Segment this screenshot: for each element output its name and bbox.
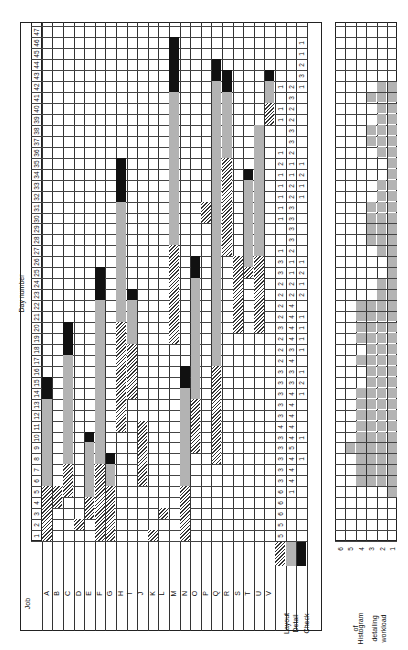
total-detail: 1 — [286, 257, 296, 268]
totals-label-check: Check — [304, 614, 311, 634]
day-number: 24 — [32, 279, 42, 290]
total-check: 1 — [297, 257, 307, 268]
bar-layout — [127, 344, 137, 399]
bar-layout — [148, 530, 158, 541]
total-layout: 6 — [275, 509, 285, 520]
bar-layout — [169, 245, 179, 344]
histogram-cell — [377, 202, 386, 212]
histogram-cell — [388, 410, 397, 420]
grid-line — [335, 530, 397, 531]
bar-layout — [42, 486, 52, 541]
bar-layout — [106, 486, 116, 541]
total-detail: 3 — [286, 213, 296, 224]
total-detail: 4 — [286, 312, 296, 323]
totals-label-layout: Layout — [283, 613, 290, 634]
day-number: 16 — [32, 366, 42, 377]
bar-detail — [244, 180, 254, 268]
histogram-cell — [377, 191, 386, 201]
job-label-U: U — [255, 591, 262, 596]
day-number: 5 — [32, 487, 42, 498]
total-detail: 2 — [286, 290, 296, 301]
day-number: 39 — [32, 114, 42, 125]
total-check: 1 — [297, 82, 307, 93]
job-label-O: O — [191, 591, 198, 596]
histogram-scale: 1 — [388, 544, 398, 555]
day-number: 35 — [32, 158, 42, 169]
histogram-cell — [377, 213, 386, 223]
histogram-cell — [367, 388, 376, 398]
grid-line — [31, 26, 307, 27]
total-detail: 1 — [286, 169, 296, 180]
histogram-cell — [377, 136, 386, 146]
histogram-cell — [377, 421, 386, 431]
total-layout: 4 — [275, 421, 285, 432]
histogram-cell — [356, 410, 365, 420]
bar-check — [95, 267, 105, 300]
total-check: 1 — [297, 432, 307, 443]
histogram-cell — [377, 399, 386, 409]
bar-check — [265, 70, 275, 81]
total-detail: 3 — [286, 235, 296, 246]
total-check: 1 — [297, 158, 307, 169]
day-number: 14 — [32, 388, 42, 399]
day-number: 7 — [32, 465, 42, 476]
histogram-cell — [356, 443, 365, 453]
total-detail: 2 — [286, 147, 296, 158]
total-layout: 1 — [275, 104, 285, 115]
day-number: 43 — [32, 71, 42, 82]
job-label-D: D — [75, 591, 82, 596]
histogram-scale: 5 — [346, 544, 356, 555]
total-layout: 2 — [275, 355, 285, 366]
total-detail: 3 — [286, 93, 296, 104]
histogram-cell — [356, 476, 365, 486]
grid-line — [335, 497, 397, 498]
day-number: 42 — [32, 82, 42, 93]
totals-label-detail: Detail — [292, 615, 299, 633]
day-number: 31 — [32, 202, 42, 213]
histogram-scale: 3 — [367, 544, 377, 555]
histogram-cell — [367, 202, 376, 212]
histogram-cell — [356, 432, 365, 442]
bar-layout — [222, 158, 232, 257]
histogram-cell — [388, 432, 397, 442]
day-number: 13 — [32, 399, 42, 410]
histogram-cell — [367, 355, 376, 365]
total-layout: 2 — [275, 290, 285, 301]
total-detail: 4 — [286, 432, 296, 443]
total-check: 1 — [297, 454, 307, 465]
histogram-cell — [377, 344, 386, 354]
bar-layout — [212, 366, 222, 465]
histogram-cell — [388, 224, 397, 234]
histogram-cell — [377, 235, 386, 245]
histogram-cell — [356, 388, 365, 398]
histogram-cell — [388, 235, 397, 245]
bar-detail — [265, 81, 275, 103]
job-label-P: P — [202, 591, 209, 596]
bar-detail — [222, 92, 232, 158]
day-number: 40 — [32, 104, 42, 115]
bar-layout — [74, 519, 84, 530]
bar-detail — [95, 300, 105, 464]
histogram-cell — [377, 432, 386, 442]
total-detail: 2 — [286, 114, 296, 125]
total-check: 2 — [297, 377, 307, 388]
day-number: 17 — [32, 355, 42, 366]
histogram-cell — [388, 279, 397, 289]
histogram-cell — [367, 454, 376, 464]
day-number: 36 — [32, 147, 42, 158]
histogram-cell — [367, 421, 376, 431]
histogram-cell — [377, 180, 386, 190]
bar-layout — [138, 421, 148, 487]
total-layout: 3 — [275, 454, 285, 465]
bar-detail — [254, 125, 264, 256]
job-label-K: K — [149, 591, 156, 596]
total-check: 1 — [297, 388, 307, 399]
total-layout: 1 — [275, 246, 285, 257]
bar-detail — [85, 442, 95, 497]
total-layout: 6 — [275, 498, 285, 509]
total-detail: 2 — [286, 279, 296, 290]
grid-line — [335, 59, 397, 60]
histogram-cell — [367, 235, 376, 245]
total-layout: 1 — [275, 191, 285, 202]
total-detail: 3 — [286, 366, 296, 377]
